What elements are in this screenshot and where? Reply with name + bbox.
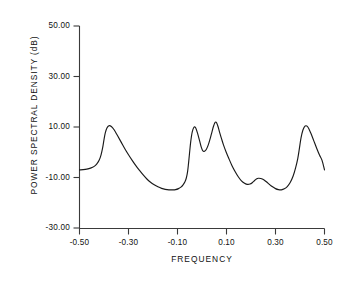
x-tick-label-010: 0.10	[207, 238, 247, 247]
x-tick-label-neg010: -0.10	[158, 238, 198, 247]
y-tick-marks	[74, 26, 80, 228]
x-tick-label-030: 0.30	[256, 238, 296, 247]
x-tick-label-050: 0.50	[305, 238, 345, 247]
x-tick-marks	[80, 229, 325, 235]
x-tick-label-neg050: -0.50	[60, 238, 100, 247]
x-tick-label-neg030: -0.30	[109, 238, 149, 247]
y-axis-title: POWER SPECTRAL DENSITY (dB)	[29, 8, 39, 222]
psd-chart: 50.00 30.00 10.00 -10.00 -30.00 -0.50 -0…	[0, 0, 351, 283]
x-axis-title: FREQUENCY	[79, 254, 325, 264]
psd-curve	[80, 122, 325, 190]
y-tick-label-neg30: -30.00	[26, 223, 70, 232]
